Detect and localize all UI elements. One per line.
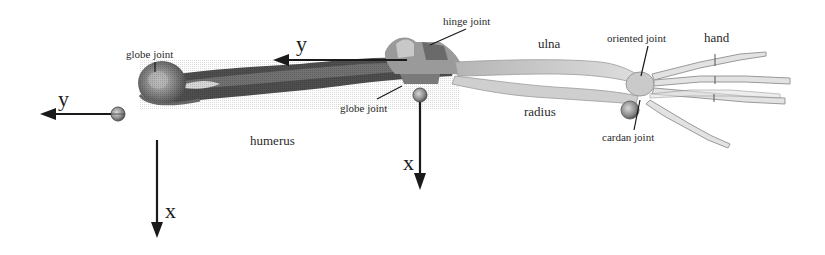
- skeleton-illustration: [0, 0, 825, 255]
- label-humerus: humerus: [250, 134, 295, 147]
- label-oriented-joint: oriented joint: [607, 33, 666, 44]
- label-globe-joint-shoulder: globe joint: [126, 49, 173, 60]
- label-hinge-joint: hinge joint: [443, 16, 490, 27]
- shoulder-axis-y-label: y: [58, 88, 69, 110]
- shoulder-axis-x-label: x: [165, 200, 176, 222]
- label-radius: radius: [524, 105, 556, 118]
- label-ulna: ulna: [538, 37, 560, 50]
- label-globe-joint-elbow: globe joint: [340, 103, 387, 114]
- label-hand: hand: [704, 31, 729, 44]
- elbow-joint-ball: [413, 88, 427, 102]
- forearm-bones: [452, 60, 640, 104]
- arm-joint-diagram: globe joint hinge joint globe joint orie…: [0, 0, 825, 255]
- elbow-axis-x-label: x: [403, 152, 414, 174]
- elbow-axis-y-label: y: [296, 33, 307, 55]
- label-cardan-joint: cardan joint: [602, 132, 654, 143]
